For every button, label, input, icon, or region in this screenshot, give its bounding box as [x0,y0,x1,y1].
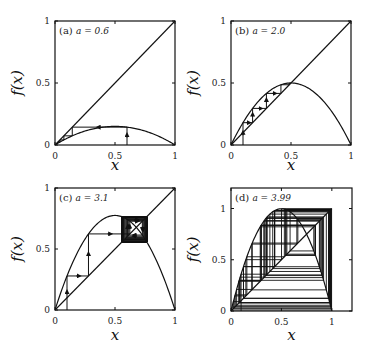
y-tick-label: 0 [220,306,226,316]
y-tick-label: 1 [220,204,226,214]
diagonal-line [55,188,175,310]
x-tick-label: 1 [172,151,178,161]
y-axis-label: f(x) [8,70,26,97]
x-tick-label: 0 [228,151,234,161]
panel-d: 00.5100.51xf(x)(d) a = 3.99 [184,188,352,344]
x-axis-label: x [111,156,120,174]
y-tick-label: 0 [44,140,50,150]
y-tick-label: 0 [220,140,226,150]
panel-label: (a) a = 0.6 [59,25,109,36]
y-tick-label: 0.5 [212,78,227,88]
panel-b: 00.5100.51xf(x)(b) a = 2.0 [184,16,354,174]
parameter-label: a = 0.6 [76,26,109,36]
panel-label: (c) a = 3.1 [59,192,109,203]
x-axis-label: x [287,156,296,174]
y-axis-label: f(x) [8,236,26,263]
panel-c: 00.5100.51xf(x)(c) a = 3.1 [8,183,178,344]
x-tick-label: 1 [329,317,335,327]
panel-label: (d) a = 3.99 [235,192,291,203]
y-tick-label: 1 [44,183,50,193]
parameter-label: a = 3.99 [252,193,291,203]
y-tick-label: 0 [44,305,50,315]
cobweb-figure: 00.5100.51xf(x)(a) a = 0.6 00.5100.51xf(… [0,0,368,352]
y-tick-label: 0.5 [36,78,51,88]
panel-letter: (d) [235,192,252,203]
panel-letter: (b) [235,25,252,36]
diagonal-line [231,21,351,145]
panel-a: 00.5100.51xf(x)(a) a = 0.6 [8,16,178,174]
parabola-curve [55,215,175,310]
panel-letter: (a) [59,25,76,36]
y-axis-label: f(x) [184,70,202,97]
y-axis-label: f(x) [184,236,202,263]
cobweb-series [67,217,147,310]
parabola-curve [231,83,351,145]
y-tick-label: 0.5 [36,244,51,254]
parameter-label: a = 3.1 [76,193,109,203]
x-tick-label: 0.5 [108,316,123,326]
panel-letter: (c) [59,192,76,203]
x-tick-label: 1 [348,151,354,161]
x-axis-label: x [287,326,296,344]
parameter-label: a = 2.0 [252,26,285,36]
x-tick-label: 0 [228,317,234,327]
x-axis-label: x [111,326,120,344]
y-tick-label: 1 [44,16,50,26]
y-tick-label: 0.5 [212,255,227,265]
y-tick-label: 1 [220,16,226,26]
x-tick-label: 0 [52,316,58,326]
x-tick-label: 1 [172,316,178,326]
panel-label: (b) a = 2.0 [235,25,286,36]
x-tick-label: 0 [52,151,58,161]
